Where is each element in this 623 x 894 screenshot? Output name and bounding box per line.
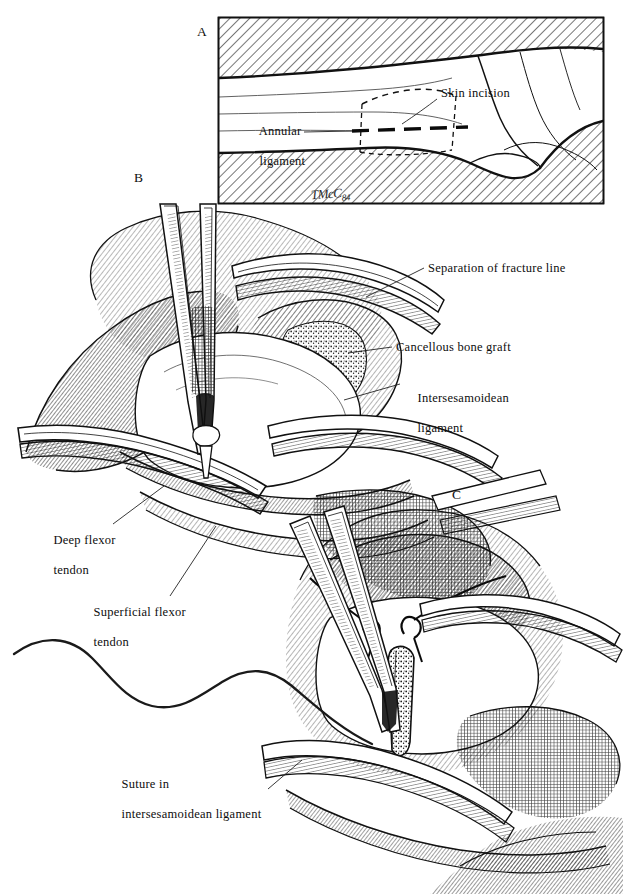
panel-letter-a: A: [197, 24, 207, 40]
label-deep-flexor-tendon-line1: Deep flexor: [54, 533, 116, 547]
panel-c-drawing: [262, 506, 623, 894]
artist-signature: TMcC84: [310, 185, 350, 205]
panel-letter-b: B: [134, 170, 144, 186]
leader-superficial-flexor-tendon: [170, 526, 216, 596]
label-annular-ligament-line2: ligament: [260, 154, 306, 168]
label-superficial-flexor-tendon-line1: Superficial flexor: [94, 605, 186, 619]
artist-signature-year: 84: [341, 192, 350, 203]
label-suture-line2: intersesamoidean ligament: [122, 807, 262, 821]
label-cancellous-bone-graft: Cancellous bone graft: [396, 340, 511, 355]
label-suture-in-intersesamoidean-ligament: Suture in intersesamoidean ligament: [108, 762, 261, 837]
label-skin-incision: Skin incision: [441, 86, 510, 101]
label-intersesamoidean-ligament-line1: Intersesamoidean: [418, 391, 509, 405]
figure-root: A B C Skin incision Annular ligament Sep…: [0, 0, 623, 894]
label-deep-flexor-tendon-line2: tendon: [54, 563, 90, 577]
label-deep-flexor-tendon: Deep flexor tendon: [40, 518, 116, 593]
label-intersesamoidean-ligament-line2: ligament: [418, 421, 464, 435]
label-intersesamoidean-ligament: Intersesamoidean ligament: [404, 376, 509, 451]
panel-letter-c: C: [452, 487, 462, 503]
illustration-canvas: [0, 0, 623, 894]
label-separation-of-fracture-line: Separation of fracture line: [428, 261, 566, 276]
label-suture-line1: Suture in: [122, 777, 170, 791]
artist-signature-initials: TMcC: [310, 185, 341, 202]
label-superficial-flexor-tendon-line2: tendon: [94, 635, 130, 649]
label-annular-ligament: Annular ligament: [246, 109, 305, 184]
label-annular-ligament-line1: Annular: [259, 124, 302, 138]
label-superficial-flexor-tendon: Superficial flexor tendon: [80, 590, 186, 665]
